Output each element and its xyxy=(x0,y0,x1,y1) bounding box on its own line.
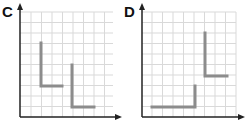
x-axis-arrow-icon xyxy=(115,114,122,120)
x-axis-arrow-icon xyxy=(238,114,245,120)
y-axis-arrow-icon xyxy=(17,3,23,10)
y-axis-arrow-icon xyxy=(139,3,145,10)
diagram-canvas xyxy=(0,0,245,128)
